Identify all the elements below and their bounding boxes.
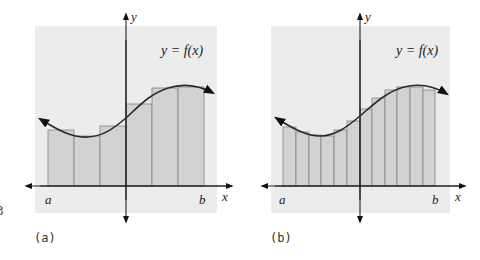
x-axis-label: x [221, 189, 228, 204]
rectangle [283, 127, 296, 186]
rectangle [410, 87, 423, 186]
rectangle [334, 130, 347, 186]
x-axis-label: x [454, 189, 461, 204]
rectangle [423, 90, 435, 186]
panel-b-caption: (b) [270, 231, 292, 245]
rectangle [100, 126, 126, 186]
rectangle [321, 136, 334, 186]
panel-a: y = f(x) y x a b (a) [26, 9, 232, 245]
edge-fragment-text: 3 [0, 203, 4, 218]
panel-b: y = f(x) y x a b (b) [262, 9, 465, 245]
rectangle [372, 98, 385, 186]
function-label: y = f(x) [394, 43, 438, 59]
rectangle [74, 136, 100, 186]
endpoint-b-label: b [432, 192, 439, 207]
rectangle [178, 87, 204, 186]
y-axis-label: y [129, 9, 137, 24]
rectangle [397, 87, 410, 186]
rectangle [347, 121, 360, 186]
rectangle [385, 90, 397, 186]
rectangle [126, 104, 152, 186]
rectangle [296, 132, 309, 186]
endpoint-a-label: a [45, 192, 52, 207]
riemann-sum-figure: 3 y = f(x) y x a b (a) [0, 0, 480, 260]
endpoint-a-label: a [279, 192, 286, 207]
panel-a-caption: (a) [34, 231, 56, 245]
rectangle [309, 135, 321, 186]
rectangle [48, 130, 74, 186]
rectangle [152, 88, 178, 186]
y-axis-label: y [363, 9, 371, 24]
endpoint-b-label: b [199, 192, 206, 207]
function-label: y = f(x) [159, 43, 203, 59]
rectangle [360, 109, 372, 186]
